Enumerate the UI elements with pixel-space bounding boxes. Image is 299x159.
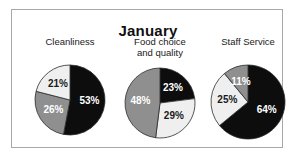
pie-chart-food-choice-and-quality: Food choice and quality 23%29%48% <box>113 36 207 148</box>
slice-26-label: 26% <box>43 104 63 115</box>
chart-figure: January Cleanliness 53%26%21% Food choic… <box>0 0 299 159</box>
slice-23-label: 23% <box>163 82 183 93</box>
slice-11-label: 11% <box>231 76 251 87</box>
pie-label-food-choice-and-quality: Food choice and quality <box>113 36 207 58</box>
slice-25-label: 25% <box>217 94 237 105</box>
slice-29-label: 29% <box>164 110 184 121</box>
pie-label-staff-service: Staff Service <box>201 36 295 47</box>
slice-48-label: 48% <box>130 95 150 106</box>
pie-chart-staff-service: Staff Service 64%25%11% <box>201 36 295 148</box>
chart-frame: January Cleanliness 53%26%21% Food choic… <box>11 9 283 148</box>
pie-canvas-staff-service: 64%25%11% <box>209 63 287 141</box>
pie-label-cleanliness: Cleanliness <box>23 36 117 47</box>
pie-canvas-food-choice-and-quality: 23%29%48% <box>123 66 197 140</box>
pie-canvas-cleanliness: 53%26%21% <box>33 63 107 137</box>
slice-21-label: 21% <box>48 78 68 89</box>
slice-53-label: 53% <box>80 95 100 106</box>
pie-label-line-1: Food choice <box>113 36 207 47</box>
pie-label-line-2: and quality <box>113 47 207 58</box>
slice-64-label: 64% <box>257 104 277 115</box>
pie-chart-cleanliness: Cleanliness 53%26%21% <box>23 36 117 148</box>
